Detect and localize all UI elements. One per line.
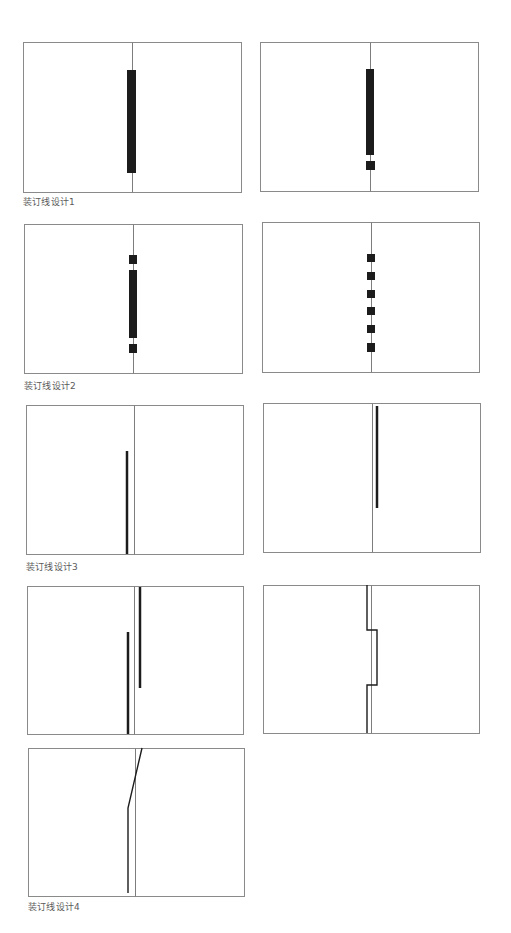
binding-block	[127, 70, 136, 173]
caption-design-4: 装订线设计4	[28, 902, 80, 912]
binding-block	[367, 307, 375, 315]
page-spread-border	[28, 587, 244, 735]
binding-block	[367, 272, 375, 280]
binding-line-diagram-canvas	[0, 0, 511, 933]
panel-design-2b	[263, 223, 480, 373]
binding-block	[367, 325, 375, 333]
binding-block	[129, 270, 137, 338]
binding-block	[129, 255, 137, 264]
panel-design-3a	[27, 406, 244, 555]
binding-block	[367, 343, 375, 352]
caption-design-2: 装订线设计2	[24, 381, 76, 391]
binding-block	[367, 254, 375, 262]
panel-design-4b	[264, 585, 480, 734]
panel-design-4c	[29, 748, 245, 897]
caption-design-3: 装订线设计3	[26, 562, 78, 572]
panel-design-1a	[24, 43, 242, 193]
binding-block	[366, 69, 374, 155]
binding-block	[367, 290, 375, 298]
panel-design-2a	[25, 225, 243, 374]
binding-block	[366, 161, 375, 170]
panel-design-3b	[264, 404, 481, 553]
panel-design-4a	[28, 587, 244, 735]
caption-design-1: 装订线设计1	[23, 197, 75, 207]
panel-design-1b	[261, 43, 479, 192]
binding-block	[129, 344, 137, 353]
